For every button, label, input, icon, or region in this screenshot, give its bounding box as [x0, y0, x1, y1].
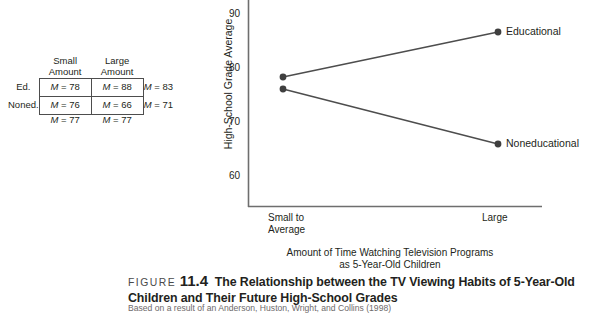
- cell-noned-large: M = 66: [91, 96, 143, 114]
- col-head-line2: Amount: [49, 66, 82, 77]
- figure-caption: FIGURE 11.4 The Relationship between the…: [128, 271, 583, 307]
- column-margin-small: M = 77: [39, 114, 91, 125]
- table-header-row: Small Amount Large Amount: [8, 56, 173, 78]
- x-tick-label-large: Large: [482, 212, 508, 224]
- series-label-educational: Educational: [506, 25, 561, 37]
- corner-blank: [8, 56, 39, 78]
- figure-label-word: FIGURE: [128, 277, 176, 288]
- col-head-line1: Large: [105, 55, 129, 66]
- row-label-noneducational: Noned.: [8, 96, 39, 114]
- y-tick-label-60: 60: [218, 170, 240, 181]
- summary-statistics-table: Small Amount Large Amount Ed. M = 78 M =…: [8, 56, 208, 125]
- margin-header-blank: [143, 56, 173, 78]
- data-point-educational-large: [495, 29, 502, 36]
- x-tick-label-small-to-average: Small to Average: [268, 212, 305, 236]
- x-axis-title-line2: as 5-Year-Old Children: [339, 259, 440, 270]
- x-tick-line1: Small to: [268, 212, 304, 223]
- table-row: Ed. M = 78 M = 88 M = 83: [8, 78, 173, 96]
- series-line-educational: [283, 32, 498, 77]
- table-margin-row: M = 77 M = 77: [8, 114, 173, 125]
- column-margin-large: M = 77: [91, 114, 143, 125]
- series-line-noneducational: [283, 89, 498, 144]
- means-table: Small Amount Large Amount Ed. M = 78 M =…: [8, 56, 173, 125]
- row-label-educational: Ed.: [8, 78, 39, 96]
- cell-ed-large: M = 88: [91, 78, 143, 96]
- margin-row-blank: [8, 114, 39, 125]
- cell-noned-small: M = 76: [39, 96, 91, 114]
- cell-ed-small: M = 78: [39, 78, 91, 96]
- data-point-noneducational-large: [495, 141, 502, 148]
- x-axis-title-line1: Amount of Time Watching Television Progr…: [287, 247, 494, 258]
- row-margin-educational: M = 83: [143, 78, 173, 96]
- data-point-educational-small: [280, 74, 287, 81]
- figure-source: Based on a result of an Anderson, Huston…: [128, 303, 583, 313]
- y-axis-title: High-School Grade Average: [222, 4, 234, 164]
- col-head-line2: Amount: [101, 66, 134, 77]
- x-tick-line2: Average: [268, 224, 305, 235]
- margin-corner-blank: [143, 114, 173, 125]
- data-point-noneducational-small: [280, 86, 287, 93]
- column-header-large-amount: Large Amount: [91, 56, 143, 78]
- x-axis-title: Amount of Time Watching Television Progr…: [220, 247, 560, 271]
- figure-number: 11.4: [180, 272, 208, 289]
- col-head-line1: Small: [53, 55, 77, 66]
- chart-plot-area: [210, 0, 589, 250]
- table-row: Noned. M = 76 M = 66 M = 71: [8, 96, 173, 114]
- column-header-small-amount: Small Amount: [39, 56, 91, 78]
- line-chart: 90 80 70 60 High-School Grade Average Ed…: [210, 0, 589, 250]
- row-margin-noneducational: M = 71: [143, 96, 173, 114]
- series-label-noneducational: Noneducational: [506, 137, 579, 149]
